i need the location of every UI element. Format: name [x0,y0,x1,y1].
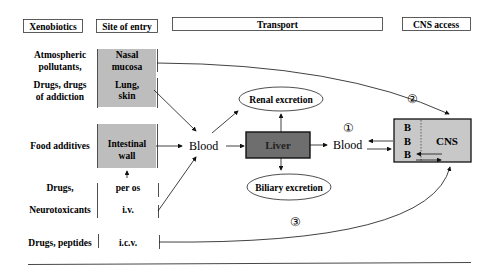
route-1-label: ① [343,121,354,135]
bottom-divider [28,263,471,265]
header-xenobiotics: Xenobiotics [24,20,83,33]
blood-node-2: Blood [333,138,362,152]
svg-text:mucosa: mucosa [112,62,143,72]
svg-text:Drugs, peptides: Drugs, peptides [28,238,92,248]
svg-text:CNS access: CNS access [413,20,459,30]
svg-text:B: B [404,122,411,133]
svg-text:per os: per os [116,183,141,193]
entry-intestinal-wall: Intestinal wall [98,124,158,168]
svg-text:i.c.v.: i.c.v. [119,238,137,248]
svg-text:B: B [404,149,411,160]
svg-text:pollutants,: pollutants, [38,62,82,72]
svg-text:Nasal: Nasal [116,50,139,60]
lung-to-blood-arrow [154,90,196,131]
svg-text:Transport: Transport [257,20,299,30]
svg-text:Neurotoxicants: Neurotoxicants [29,205,91,215]
svg-text:B: B [404,136,411,147]
svg-text:CNS: CNS [436,135,458,147]
svg-text:Lung,: Lung, [115,80,140,90]
svg-text:Drugs,: Drugs, [46,183,74,193]
svg-text:Food additives: Food additives [30,141,90,151]
svg-text:Atmospheric: Atmospheric [34,50,86,60]
xenobiotic-pathway-diagram: Xenobiotics Site of entry Transport CNS … [0,0,496,269]
xenobiotics-list: Atmospheric pollutants, Drugs, drugs of … [28,50,92,248]
svg-text:of addiction: of addiction [36,92,85,102]
svg-text:Renal excretion: Renal excretion [249,95,313,105]
header-transport: Transport [173,18,383,31]
blood-node-1: Blood [189,139,218,153]
biliary-excretion-node: Biliary excretion [247,174,331,200]
svg-text:Site of entry: Site of entry [102,22,152,32]
svg-text:Drugs, drugs: Drugs, drugs [34,80,87,90]
svg-text:Xenobiotics: Xenobiotics [29,22,77,32]
svg-text:Liver: Liver [265,139,291,151]
entry-per-os-iv: per os i.v. [98,183,159,218]
blood-to-renal-arrow [212,111,238,133]
entry-icv: i.c.v. [99,234,160,249]
svg-text:skin: skin [119,91,137,101]
svg-text:Biliary excretion: Biliary excretion [255,183,323,193]
svg-text:wall: wall [119,151,136,161]
cns-node: B B B CNS [394,119,471,162]
liver-node: Liver [246,132,310,158]
route-2-label: ② [407,92,418,106]
route-3-label: ③ [290,215,301,229]
svg-text:Intestinal: Intestinal [108,139,147,149]
renal-excretion-node: Renal excretion [239,87,323,111]
svg-text:i.v.: i.v. [122,205,134,215]
iv-to-blood-arrow [158,157,196,211]
header-cns-access: CNS access [403,18,471,31]
header-site-of-entry: Site of entry [97,20,158,33]
